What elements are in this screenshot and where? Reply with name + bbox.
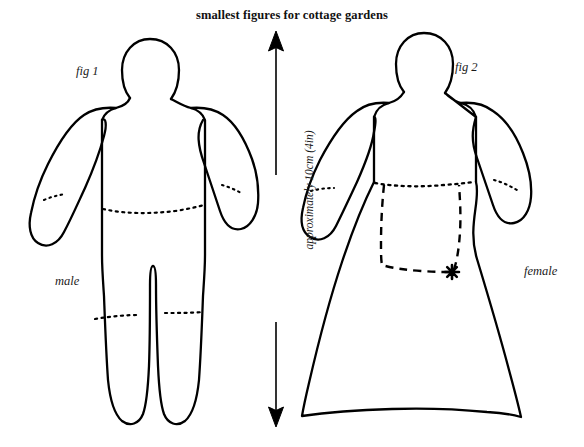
height-dimension-arrow — [269, 31, 284, 427]
male-caption: male — [55, 274, 79, 289]
male-waist-dotted-line — [103, 205, 204, 213]
female-skirt-outline — [302, 182, 521, 417]
page-title: smallest figures for cottage gardens — [0, 8, 584, 23]
male-right-arm-outline — [191, 108, 258, 230]
male-left-cuff-dotted-line — [44, 194, 66, 200]
figure-female — [302, 33, 532, 417]
illustration-page: smallest figures for cottage gardens fig… — [0, 0, 584, 447]
dimension-arrow-head-up — [269, 31, 284, 51]
dimension-arrow-head-down — [269, 407, 284, 427]
female-bodice-outline — [374, 92, 476, 182]
apron-star-marker — [445, 265, 459, 279]
female-caption: female — [524, 264, 557, 279]
fig1-label: fig 1 — [76, 64, 99, 79]
female-right-sleeve-outline — [461, 103, 531, 224]
figure-male — [30, 39, 259, 424]
female-head-outline — [396, 33, 453, 93]
female-apron-dashed-outline — [381, 185, 460, 272]
fig2-label: fig 2 — [455, 60, 478, 75]
male-right-cuff-dotted-line — [222, 185, 243, 194]
dimension-label: approximately 10cm (4in) — [303, 120, 323, 260]
female-right-cuff-dotted-line — [494, 180, 517, 190]
male-body-outline — [102, 98, 205, 424]
male-head-outline — [122, 39, 179, 99]
